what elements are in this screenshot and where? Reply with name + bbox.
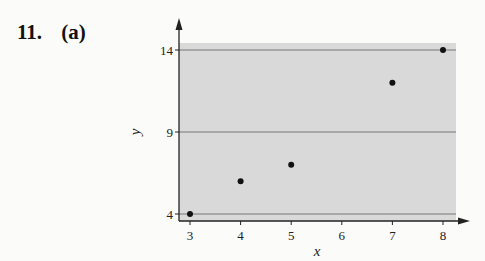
scatter-plot: 3456784914xy <box>0 0 485 261</box>
y-tick-label: 9 <box>167 125 174 140</box>
x-tick-label: 3 <box>187 228 194 243</box>
data-point <box>288 162 294 168</box>
x-tick-label: 4 <box>237 228 244 243</box>
y-axis-arrow-icon <box>176 18 183 30</box>
x-tick-label: 6 <box>339 228 346 243</box>
y-tick-label: 4 <box>167 207 174 222</box>
data-point <box>440 47 446 53</box>
data-point <box>238 178 244 184</box>
x-axis-label: x <box>313 243 321 259</box>
data-point <box>389 80 395 86</box>
data-point <box>187 211 193 217</box>
x-tick-label: 5 <box>288 228 295 243</box>
x-tick-label: 7 <box>389 228 396 243</box>
x-tick-label: 8 <box>440 228 447 243</box>
y-axis-label: y <box>127 128 143 137</box>
x-axis-arrow-icon <box>458 218 470 225</box>
y-tick-label: 14 <box>160 43 174 58</box>
